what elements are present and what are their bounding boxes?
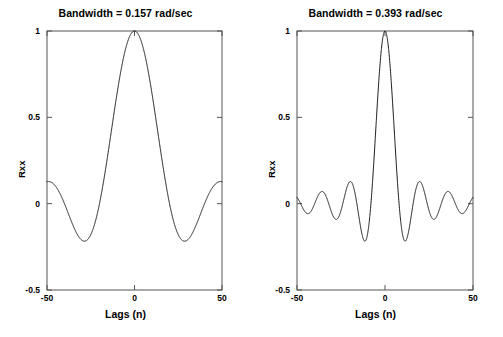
y-tick-label: 0.5: [278, 112, 290, 122]
figure-canvas: Bandwidth = 0.157 rad/sec -0.500.51-5005…: [0, 0, 503, 337]
y-tick-label: -0.5: [275, 285, 290, 295]
y-tick-label: 0.5: [28, 112, 40, 122]
axis-frame: [297, 31, 473, 290]
y-axis-label-left: Rxx: [16, 161, 27, 178]
x-tick-label: -50: [291, 293, 304, 303]
x-axis-label-right: Lags (n): [250, 308, 501, 320]
x-tick-label: -50: [41, 293, 54, 303]
plot-panel-right: Bandwidth = 0.393 rad/sec -0.500.51-5005…: [250, 0, 501, 337]
axis-frame: [47, 31, 222, 290]
x-axis-label-left: Lags (n): [0, 308, 251, 320]
plot-panel-left: Bandwidth = 0.157 rad/sec -0.500.51-5005…: [0, 0, 251, 337]
y-tick-label: 0: [285, 199, 290, 209]
data-curve: [297, 31, 473, 241]
y-axis-label-right: Rxx: [266, 161, 277, 178]
x-tick-label: 50: [217, 293, 227, 303]
plot-area-right: -0.500.51-50050: [250, 0, 503, 337]
y-tick-label: 0: [35, 199, 40, 209]
data-curve: [47, 31, 222, 241]
y-tick-label: 1: [285, 26, 290, 36]
x-tick-label: 0: [383, 293, 388, 303]
x-tick-label: 50: [468, 293, 478, 303]
x-tick-label: 0: [132, 293, 137, 303]
plot-area-left: -0.500.51-50050: [0, 0, 251, 337]
y-tick-label: 1: [35, 26, 40, 36]
y-tick-label: -0.5: [25, 285, 40, 295]
